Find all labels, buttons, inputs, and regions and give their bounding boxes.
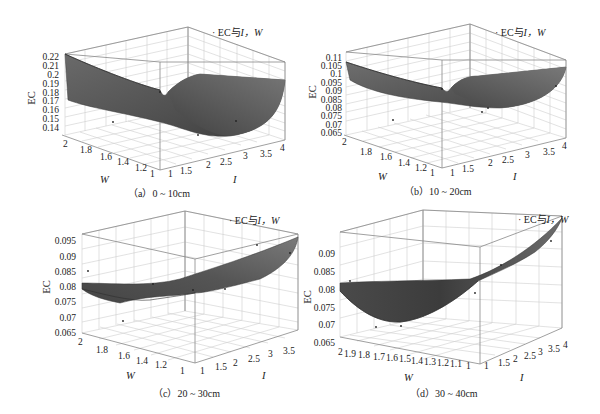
svg-text:1.8: 1.8 [358,350,370,360]
svg-text:2.5: 2.5 [248,354,260,364]
svg-text:1: 1 [180,366,185,376]
svg-text:1: 1 [466,361,471,371]
svg-text:1.4: 1.4 [411,356,423,366]
surface-plot-b: 0.11 0.105 0.1 0.095 0.09 0.085 0.08 0.0… [300,0,600,207]
svg-text:1.8: 1.8 [96,345,108,355]
svg-text:2: 2 [233,358,238,368]
svg-text:4: 4 [280,143,285,153]
svg-text:3.5: 3.5 [543,147,555,157]
svg-text:1.3: 1.3 [424,357,436,367]
svg-text:2: 2 [342,137,347,147]
i-axis-ticks: 1 1.5 2 2.5 3 3.5 4 [484,340,568,371]
z-axis-label: EC [41,280,52,293]
svg-text:1.4: 1.4 [398,158,410,168]
legend-d: · EC与I，W [518,211,568,226]
caption-c: （c）20 ~ 30cm [153,385,220,400]
z-axis-label: EC [307,85,318,98]
svg-text:1.6: 1.6 [386,353,398,363]
svg-text:0.09: 0.09 [318,249,335,259]
w-axis-label: W [126,370,136,381]
z-axis-label: EC [302,290,313,303]
w-axis-label: W [404,372,414,383]
svg-text:1: 1 [450,168,455,178]
i-axis-label: I [261,370,266,381]
svg-text:0.065: 0.065 [321,128,343,138]
svg-text:0.14: 0.14 [42,123,59,133]
svg-text:4: 4 [563,340,568,350]
svg-text:1.5: 1.5 [462,164,474,174]
svg-text:2.5: 2.5 [220,157,232,167]
w-axis-label: W [378,171,388,182]
svg-text:0.07: 0.07 [59,313,76,323]
z-axis-label: EC [26,91,37,104]
surface-plot-d: 0.09 0.085 0.08 0.075 0.07 0.065 EC 2 1.… [300,207,600,414]
svg-text:3.5: 3.5 [283,346,295,356]
svg-text:1: 1 [430,168,435,178]
svg-text:1: 1 [484,361,489,371]
ec-surface-c [82,237,298,303]
svg-text:2: 2 [488,158,493,168]
svg-text:1.2: 1.2 [437,358,449,368]
svg-text:1: 1 [200,366,205,376]
svg-text:3.5: 3.5 [260,149,272,159]
svg-text:1.5: 1.5 [399,354,411,364]
svg-text:1.2: 1.2 [155,360,167,370]
caption-a: （a）0 ~ 10cm [128,185,190,200]
svg-text:1.6: 1.6 [380,152,392,162]
ec-surface-a [65,54,285,136]
svg-text:1.5: 1.5 [215,362,227,372]
caption-d: （d）30 ~ 40cm [410,385,478,400]
svg-text:1: 1 [168,169,173,179]
svg-text:1.7: 1.7 [373,352,385,362]
w-axis-ticks: 2 1.9 1.8 1.7 1.6 1.5 1.4 1.3 1.2 1.1 1 [338,347,471,371]
svg-text:3.5: 3.5 [548,344,560,354]
svg-text:0.095: 0.095 [55,236,77,246]
w-axis-ticks: 2 1.8 1.6 1.4 1.2 1 [342,137,435,178]
svg-text:2: 2 [206,160,211,170]
svg-text:0.08: 0.08 [59,282,76,292]
svg-text:1.6: 1.6 [118,351,130,361]
svg-text:2: 2 [513,354,518,364]
ec-surface-b [346,62,566,108]
svg-text:1.5: 1.5 [180,166,192,176]
legend-a: · EC与I，W [212,24,262,39]
chart-panel-a: 0.22 0.21 0.2 0.19 0.18 0.17 0.16 0.15 0… [0,0,300,207]
svg-text:1.2: 1.2 [415,163,427,173]
chart-panel-d: 0.09 0.085 0.08 0.075 0.07 0.065 EC 2 1.… [300,207,600,414]
svg-text:0.065: 0.065 [55,328,77,338]
svg-text:1.2: 1.2 [135,163,147,173]
svg-text:1.8: 1.8 [360,147,372,157]
svg-text:1.8: 1.8 [80,145,92,155]
svg-text:2: 2 [63,139,68,149]
chart-panel-b: 0.11 0.105 0.1 0.095 0.09 0.085 0.08 0.0… [300,0,600,207]
svg-text:1.4: 1.4 [136,356,148,366]
svg-text:0.07: 0.07 [318,320,335,330]
i-axis-ticks: 1 1.5 2 2.5 3 3.5 4 [168,143,285,179]
svg-text:0.09: 0.09 [59,252,76,262]
svg-text:1.4: 1.4 [117,157,129,167]
svg-text:2.5: 2.5 [524,351,536,361]
i-axis-ticks: 1 1.5 2 2.5 3 3.5 [200,346,295,376]
svg-text:3: 3 [525,150,530,160]
legend-b: · EC与I，W [495,24,545,39]
svg-text:0.08: 0.08 [318,285,335,295]
svg-text:1.9: 1.9 [344,349,356,359]
z-axis-ticks: 0.095 0.09 0.085 0.08 0.075 0.07 0.065 [55,236,77,338]
svg-text:1.5: 1.5 [498,358,510,368]
svg-text:0.065: 0.065 [314,338,336,348]
svg-text:3: 3 [538,347,543,357]
legend-c: · EC与I，W [229,212,279,227]
z-axis-ticks: 0.11 0.105 0.1 0.095 0.09 0.085 0.08 0.0… [321,53,343,138]
w-axis-ticks: 2 1.8 1.6 1.4 1.2 1 [63,139,155,179]
svg-text:1: 1 [150,169,155,179]
svg-text:2: 2 [78,337,83,347]
svg-text:1.1: 1.1 [450,359,462,369]
z-axis-ticks: 0.09 0.085 0.08 0.075 0.07 0.065 [314,249,336,348]
svg-text:1.6: 1.6 [100,152,112,162]
svg-text:0.075: 0.075 [55,297,77,307]
z-axis-ticks: 0.22 0.21 0.2 0.19 0.18 0.17 0.16 0.15 0… [42,52,59,133]
svg-text:2.5: 2.5 [502,155,514,165]
ec-surface-d [340,218,562,322]
i-axis-label: I [519,372,524,383]
svg-text:4: 4 [562,141,567,151]
